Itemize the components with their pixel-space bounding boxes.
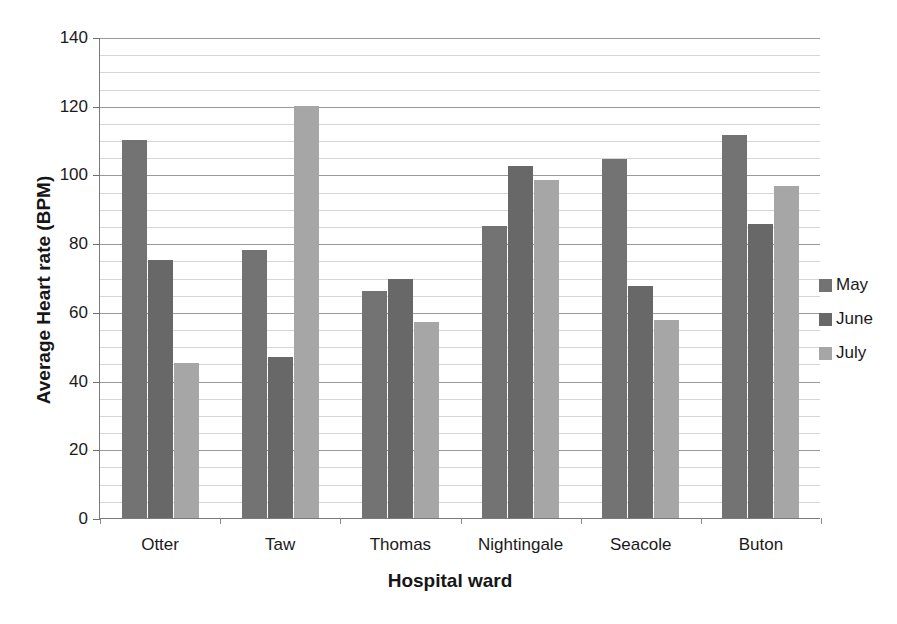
legend-swatch-icon (819, 279, 832, 292)
y-tick-mark (93, 107, 100, 108)
y-tick-label: 0 (79, 509, 88, 529)
y-tick-mark (93, 450, 100, 451)
legend-item-june[interactable]: June (819, 302, 891, 336)
bar-may-nightingale[interactable] (482, 226, 507, 518)
legend-label: June (836, 309, 873, 329)
x-tick-mark (701, 518, 702, 524)
y-tick-label: 60 (69, 303, 88, 323)
legend-label: May (836, 275, 868, 295)
bar-may-thomas[interactable] (362, 291, 387, 518)
x-tick-label: Buton (681, 535, 841, 555)
x-tick-mark (100, 518, 101, 524)
plot-area: 020406080100120140 OtterTawThomasNightin… (99, 38, 820, 519)
legend-swatch-icon (819, 313, 832, 326)
bar-june-thomas[interactable] (388, 279, 413, 518)
y-tick-label: 40 (69, 372, 88, 392)
legend-item-july[interactable]: July (819, 336, 891, 370)
bar-july-thomas[interactable] (414, 322, 439, 518)
bar-may-buton[interactable] (722, 135, 747, 518)
x-tick-mark (220, 518, 221, 524)
bar-group: Otter (100, 38, 220, 518)
legend: MayJuneJuly (819, 268, 891, 370)
bar-june-nightingale[interactable] (508, 166, 533, 518)
bar-may-otter[interactable] (122, 140, 147, 518)
bar-may-seacole[interactable] (602, 159, 627, 518)
y-axis-title: Average Heart rate (BPM) (33, 60, 55, 520)
legend-swatch-icon (819, 347, 832, 360)
x-tick-mark (821, 518, 822, 524)
bar-group: Thomas (340, 38, 460, 518)
y-tick-mark (93, 244, 100, 245)
bar-june-seacole[interactable] (628, 286, 653, 518)
bar-june-otter[interactable] (148, 260, 173, 518)
x-axis-title: Hospital ward (100, 570, 800, 592)
x-tick-mark (581, 518, 582, 524)
y-tick-mark (93, 519, 100, 520)
y-tick-mark (93, 382, 100, 383)
x-tick-mark (340, 518, 341, 524)
bar-group: Buton (701, 38, 821, 518)
bar-july-seacole[interactable] (654, 320, 679, 518)
bar-group: Taw (220, 38, 340, 518)
y-tick-mark (93, 175, 100, 176)
y-tick-mark (93, 38, 100, 39)
bar-july-otter[interactable] (174, 363, 199, 518)
y-tick-label: 100 (60, 165, 88, 185)
bar-may-taw[interactable] (242, 250, 267, 518)
bar-july-buton[interactable] (774, 186, 799, 518)
bar-july-taw[interactable] (294, 106, 319, 518)
bar-group: Seacole (581, 38, 701, 518)
bar-group: Nightingale (461, 38, 581, 518)
y-tick-label: 140 (60, 28, 88, 48)
bar-june-buton[interactable] (748, 224, 773, 518)
bar-chart: Average Heart rate (BPM) 020406080100120… (0, 0, 897, 624)
y-tick-label: 80 (69, 234, 88, 254)
y-tick-mark (93, 313, 100, 314)
x-tick-mark (461, 518, 462, 524)
y-tick-label: 20 (69, 440, 88, 460)
y-tick-label: 120 (60, 97, 88, 117)
bar-june-taw[interactable] (268, 357, 293, 518)
legend-label: July (836, 343, 866, 363)
bar-july-nightingale[interactable] (534, 180, 559, 518)
legend-item-may[interactable]: May (819, 268, 891, 302)
